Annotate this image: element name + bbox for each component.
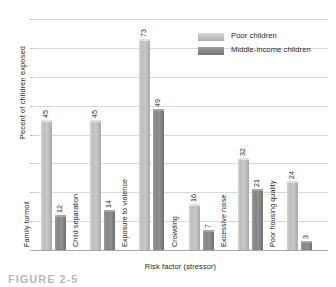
bar: 45	[41, 120, 52, 250]
bar-value-label: 73	[140, 29, 148, 37]
bar: 45	[90, 120, 101, 250]
category-label: Excessive noise	[219, 194, 228, 247]
bar-top-highlight	[139, 39, 150, 41]
category-label: Poor housing quality	[268, 180, 277, 247]
bar-value-label: 45	[91, 110, 99, 118]
figure-bar-chart: Pecent of children exposed 4512Family tu…	[0, 0, 336, 287]
bar-value-label: 7	[204, 224, 212, 228]
bar-top-highlight	[55, 215, 66, 217]
bar: 21	[252, 189, 263, 250]
bar-value-label: 49	[154, 99, 162, 107]
category-label: Crowding	[170, 216, 179, 247]
bar-value-label: 45	[42, 110, 50, 118]
bar: 32	[238, 158, 249, 250]
bar-top-highlight	[104, 210, 115, 212]
bar: 14	[104, 210, 115, 250]
bar: 73	[139, 39, 150, 250]
bar-group: 4514Child separation	[90, 19, 116, 250]
figure-caption: FIGURE 2-5	[8, 273, 78, 285]
category-label: Exposure to violence	[120, 179, 129, 247]
bar-group: 4512Family turmoil	[41, 19, 67, 250]
bar-top-highlight	[252, 189, 263, 191]
bar: 7	[203, 230, 214, 250]
bar-group: 7349Exposure to violence	[139, 19, 165, 250]
category-label: Family turmoil	[22, 201, 31, 247]
bar-top-highlight	[90, 120, 101, 122]
y-tick-mark-0	[30, 250, 33, 251]
bar: 12	[55, 215, 66, 250]
bar-value-label: 21	[253, 179, 261, 187]
bar-top-highlight	[238, 158, 249, 160]
legend-label: Middle-income children	[231, 45, 311, 54]
bar-value-label: 32	[239, 148, 247, 156]
bar-value-label: 14	[105, 200, 113, 208]
legend-label: Poor children	[231, 31, 277, 40]
bar-value-label: 12	[56, 205, 64, 213]
bar-top-highlight	[41, 120, 52, 122]
bar-value-label: 3	[302, 235, 310, 239]
dark-gray-swatch	[198, 47, 224, 55]
y-axis-title: Pecent of children exposed	[18, 23, 27, 163]
bar-value-label: 16	[190, 194, 198, 202]
bar: 3	[301, 241, 312, 250]
light-gray-swatch	[198, 33, 224, 41]
bar-top-highlight	[153, 109, 164, 111]
bar-top-highlight	[287, 181, 298, 183]
category-label: Child separation	[71, 194, 80, 247]
gridline-0	[33, 250, 328, 251]
bar-top-highlight	[203, 230, 214, 232]
bar-top-highlight	[189, 204, 200, 206]
bar: 24	[287, 181, 298, 250]
bar-top-highlight	[301, 241, 312, 243]
x-axis-title: Risk factor (stressor)	[33, 262, 328, 271]
bar: 49	[153, 109, 164, 250]
bar-value-label: 24	[288, 171, 296, 179]
bar: 16	[189, 204, 200, 250]
